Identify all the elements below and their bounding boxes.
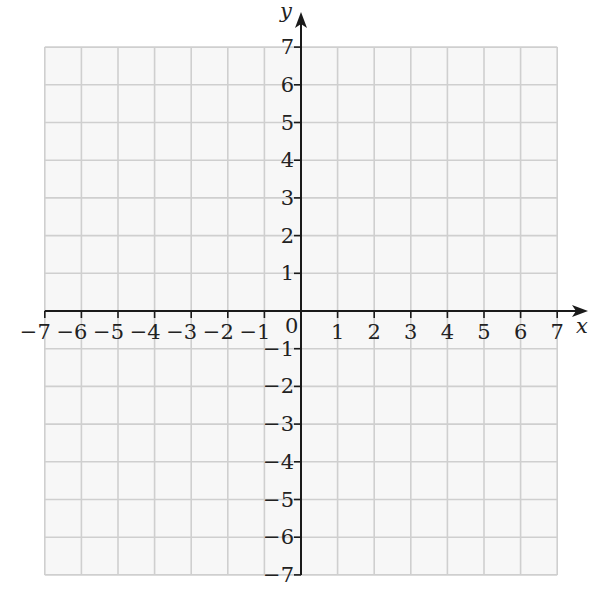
x-tick-label: 5 bbox=[477, 320, 490, 344]
y-tick-label: −4 bbox=[263, 450, 294, 474]
y-tick-label: −2 bbox=[263, 374, 294, 398]
x-tick-label: −6 bbox=[56, 320, 87, 344]
y-tick-label: 4 bbox=[281, 148, 294, 172]
y-tick-label: 2 bbox=[281, 224, 294, 248]
y-tick-label: 1 bbox=[281, 261, 294, 285]
y-tick-label: 3 bbox=[281, 186, 294, 210]
coordinate-plane: −7−6−5−4−3−2−11234567−7−6−5−4−3−2−112345… bbox=[0, 0, 598, 606]
x-tick-label: −2 bbox=[203, 320, 234, 344]
y-tick-label: −7 bbox=[263, 563, 294, 587]
x-tick-label: −4 bbox=[130, 320, 161, 344]
x-tick-label: −5 bbox=[93, 320, 124, 344]
y-tick-label: −1 bbox=[263, 337, 294, 361]
x-tick-label: 3 bbox=[404, 320, 417, 344]
y-tick-label: −6 bbox=[263, 525, 294, 549]
y-axis-label: y bbox=[279, 0, 293, 23]
x-tick-label: 2 bbox=[368, 320, 381, 344]
x-tick-label: 1 bbox=[331, 320, 344, 344]
x-tick-label: 4 bbox=[441, 320, 454, 344]
y-tick-label: 6 bbox=[281, 73, 294, 97]
x-tick-label: −3 bbox=[166, 320, 197, 344]
x-tick-label: −7 bbox=[20, 320, 51, 344]
x-tick-label: 6 bbox=[514, 320, 527, 344]
y-tick-label: 7 bbox=[281, 35, 294, 59]
y-tick-label: 5 bbox=[281, 111, 294, 135]
x-tick-label: 7 bbox=[551, 320, 564, 344]
y-tick-label: −3 bbox=[263, 412, 294, 436]
origin-label: 0 bbox=[285, 314, 298, 338]
x-axis-label: x bbox=[576, 314, 588, 338]
y-tick-label: −5 bbox=[263, 488, 294, 512]
